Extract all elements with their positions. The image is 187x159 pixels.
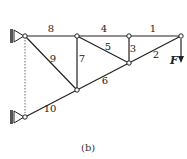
- force-label: F: [169, 54, 179, 67]
- member-label-6: 6: [102, 75, 108, 86]
- member-label-2: 2: [153, 49, 159, 60]
- node-G: [75, 88, 79, 92]
- node-B: [75, 34, 79, 38]
- truss-diagram: 12345678910 F (b): [0, 0, 187, 159]
- member-labels: 12345678910: [44, 23, 160, 114]
- node-D: [179, 34, 183, 38]
- figure-caption: (b): [81, 142, 95, 153]
- member-label-10: 10: [44, 103, 57, 114]
- wall-support-top: [10, 29, 24, 43]
- node-C: [127, 34, 131, 38]
- member-label-5: 5: [105, 41, 111, 52]
- force-arrow: [178, 39, 184, 63]
- node-A: [23, 34, 27, 38]
- member-label-3: 3: [130, 43, 136, 54]
- node-E: [127, 61, 131, 65]
- member-label-9: 9: [50, 53, 56, 64]
- member-label-4: 4: [101, 23, 107, 34]
- member-label-8: 8: [48, 23, 54, 34]
- member-label-7: 7: [79, 53, 85, 64]
- node-H: [23, 115, 27, 119]
- member-label-1: 1: [150, 23, 156, 34]
- wall-support-bottom: [10, 110, 24, 124]
